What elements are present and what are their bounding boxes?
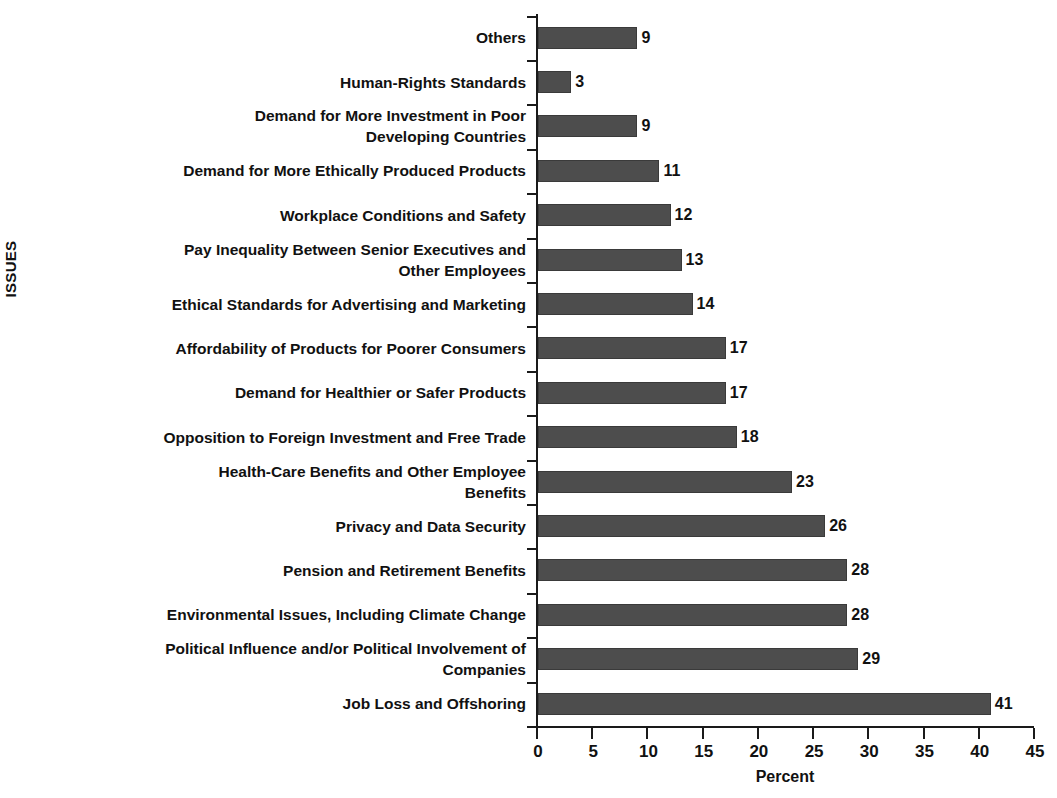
bar[interactable] [538, 204, 671, 226]
x-axis-tick [978, 728, 980, 739]
category-label: Job Loss and Offshoring [26, 682, 526, 726]
bar-row: Others9 [0, 16, 1057, 60]
category-label-line: Opposition to Foreign Investment and Fre… [163, 427, 526, 448]
bar-value-label: 13 [682, 249, 704, 271]
category-label-line: Demand for More Ethically Produced Produ… [183, 160, 526, 181]
bar-row: Environmental Issues, Including Climate … [0, 593, 1057, 637]
x-axis-tick [702, 728, 704, 739]
bar-value-label: 12 [671, 204, 693, 226]
x-axis-tick-label: 35 [903, 742, 947, 762]
category-label-line: Benefits [465, 482, 526, 503]
bar-value-label: 17 [726, 382, 748, 404]
category-label-line: Ethical Standards for Advertising and Ma… [172, 294, 526, 315]
x-axis-tick-label: 45 [1013, 742, 1057, 762]
bar-row: Pension and Retirement Benefits28 [0, 548, 1057, 592]
category-label: Health-Care Benefits and Other EmployeeB… [26, 460, 526, 504]
x-axis-tick-label: 25 [792, 742, 836, 762]
bar-value-label: 9 [637, 115, 650, 137]
bar[interactable] [538, 648, 858, 670]
bar-row: Job Loss and Offshoring41 [0, 682, 1057, 726]
bar-value-label: 28 [847, 559, 869, 581]
bar-value-label: 26 [825, 515, 847, 537]
category-label: Demand for More Investment in PoorDevelo… [26, 104, 526, 148]
x-axis-tick [591, 728, 593, 739]
plot-area: Others9Human-Rights Standards3Demand for… [0, 0, 1057, 798]
x-axis-tick [1033, 728, 1035, 739]
category-label: Human-Rights Standards [26, 60, 526, 104]
bar-row: Demand for Healthier or Safer Products17 [0, 371, 1057, 415]
category-label-line: Affordability of Products for Poorer Con… [175, 338, 526, 359]
bar[interactable] [538, 604, 847, 626]
bar-row: Human-Rights Standards3 [0, 60, 1057, 104]
category-label: Opposition to Foreign Investment and Fre… [26, 415, 526, 459]
category-label-line: Other Employees [399, 260, 527, 281]
x-axis-tick-label: 20 [737, 742, 781, 762]
category-label: Others [26, 16, 526, 60]
category-label-line: Privacy and Data Security [336, 516, 526, 537]
category-label: Environmental Issues, Including Climate … [26, 593, 526, 637]
category-label-line: Pension and Retirement Benefits [283, 560, 526, 581]
bar-row: Demand for More Ethically Produced Produ… [0, 149, 1057, 193]
bar[interactable] [538, 249, 682, 271]
bar-value-label: 17 [726, 337, 748, 359]
bar-row: Health-Care Benefits and Other EmployeeB… [0, 460, 1057, 504]
bar[interactable] [538, 426, 737, 448]
x-axis-tick-label: 15 [682, 742, 726, 762]
bar[interactable] [538, 27, 637, 49]
x-axis-tick-label: 10 [626, 742, 670, 762]
bar-value-label: 3 [571, 71, 584, 93]
x-axis-tick [757, 728, 759, 739]
x-axis-tick-label: 5 [571, 742, 615, 762]
bar-value-label: 14 [693, 293, 715, 315]
category-label: Privacy and Data Security [26, 504, 526, 548]
category-label: Pension and Retirement Benefits [26, 548, 526, 592]
category-label-line: Demand for More Investment in Poor [255, 105, 526, 126]
category-label-line: Human-Rights Standards [340, 72, 526, 93]
bar[interactable] [538, 71, 571, 93]
bar-chart: ISSUES Others9Human-Rights Standards3Dem… [0, 0, 1057, 798]
bar[interactable] [538, 693, 991, 715]
bar[interactable] [538, 337, 726, 359]
bar-row: Pay Inequality Between Senior Executives… [0, 238, 1057, 282]
category-label: Workplace Conditions and Safety [26, 193, 526, 237]
bar[interactable] [538, 293, 693, 315]
x-axis-tick-label: 40 [958, 742, 1002, 762]
x-axis-tick [812, 728, 814, 739]
bar[interactable] [538, 382, 726, 404]
bar-value-label: 18 [737, 426, 759, 448]
bar[interactable] [538, 471, 792, 493]
bar-value-label: 28 [847, 604, 869, 626]
bar-value-label: 9 [637, 27, 650, 49]
category-label: Ethical Standards for Advertising and Ma… [26, 282, 526, 326]
bar-value-label: 23 [792, 471, 814, 493]
bar-row: Political Influence and/or Political Inv… [0, 637, 1057, 681]
category-label-line: Pay Inequality Between Senior Executives… [184, 239, 526, 260]
bar-row: Ethical Standards for Advertising and Ma… [0, 282, 1057, 326]
category-label-line: Workplace Conditions and Safety [280, 205, 526, 226]
bar-row: Privacy and Data Security26 [0, 504, 1057, 548]
category-label-line: Environmental Issues, Including Climate … [167, 604, 526, 625]
x-axis-title: Percent [536, 768, 1034, 786]
category-label: Demand for More Ethically Produced Produ… [26, 149, 526, 193]
category-label: Political Influence and/or Political Inv… [26, 637, 526, 681]
bar-row: Workplace Conditions and Safety12 [0, 193, 1057, 237]
category-label: Affordability of Products for Poorer Con… [26, 326, 526, 370]
x-axis-tick-label: 0 [516, 742, 560, 762]
bar[interactable] [538, 559, 847, 581]
bar-row: Affordability of Products for Poorer Con… [0, 326, 1057, 370]
category-label: Pay Inequality Between Senior Executives… [26, 238, 526, 282]
category-label-line: Demand for Healthier or Safer Products [235, 382, 526, 403]
category-label-line: Political Influence and/or Political Inv… [165, 638, 526, 659]
bar[interactable] [538, 515, 825, 537]
x-axis-tick [646, 728, 648, 739]
x-axis-tick [536, 728, 538, 739]
bar[interactable] [538, 115, 637, 137]
category-label-line: Others [476, 27, 526, 48]
x-axis-tick-label: 30 [847, 742, 891, 762]
category-label-line: Job Loss and Offshoring [343, 693, 526, 714]
bar[interactable] [538, 160, 659, 182]
category-label-line: Companies [442, 659, 526, 680]
x-axis-tick [923, 728, 925, 739]
bar-value-label: 41 [991, 693, 1013, 715]
category-label: Demand for Healthier or Safer Products [26, 371, 526, 415]
